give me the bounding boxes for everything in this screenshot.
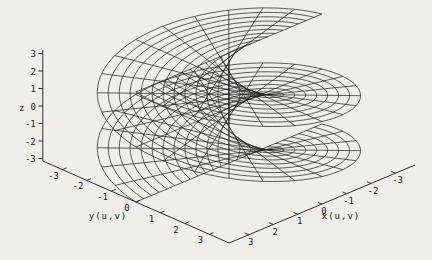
tick-label: -1 [343,196,354,206]
tick-label: -2 [368,186,379,196]
iso-v-lines [97,8,360,202]
tick-label: -3 [392,175,403,185]
tick-label: -2 [25,137,36,147]
tick-label: 0 [30,102,35,112]
tick-label: 3 [198,235,203,245]
tick-label: 2 [173,225,178,235]
tick-label: -1 [97,192,108,202]
tick-label: 3 [248,237,253,247]
tick-label: 1 [30,84,35,94]
wireframe-surface-plot: 3210-1-2-3-3-2-101233210-1-2-3 [0,0,432,260]
tick-label: 2 [272,227,277,237]
tick-label: -3 [48,171,59,181]
x-axis-label: x(u,v) [311,211,371,221]
tick-label: 3 [30,49,35,59]
tick-label: 1 [297,216,302,226]
y-axis-label: y(u,v) [78,211,138,221]
z-axis-label: z [19,103,25,113]
tick-label: 1 [149,214,154,224]
plot-figure: 3210-1-2-3-3-2-101233210-1-2-3 z y(u,v) … [0,0,432,260]
tick-label: -2 [72,181,83,191]
tick-label: 2 [30,67,35,77]
tick-label: -3 [25,154,36,164]
tick-label: -1 [25,119,36,129]
